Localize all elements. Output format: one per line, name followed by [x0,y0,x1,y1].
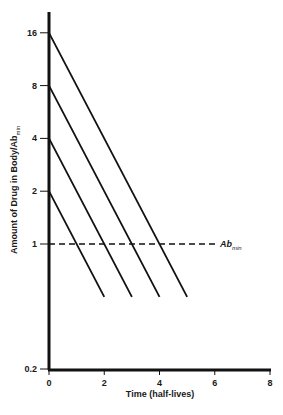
y-axis-ticks: 0.2124816 [24,28,49,374]
x-tick-label: 0 [46,378,51,388]
series-lines [49,33,187,297]
x-axis-label: Time (half-lives) [126,389,194,399]
y-tick-label: 0.2 [24,364,37,374]
y-axis-label: Amount of Drug in Body/Abmin [9,126,21,254]
elimination-line [49,33,187,297]
y-tick-label: 8 [32,81,37,91]
x-tick-label: 8 [267,378,272,388]
x-tick-label: 2 [102,378,107,388]
x-axis-ticks: 02468 [46,370,272,388]
x-tick-label: 6 [212,378,217,388]
y-tick-label: 2 [32,186,37,196]
elimination-line [49,191,104,297]
ab-min-label: Abmin [219,239,242,251]
elimination-line [49,86,160,297]
y-tick-label: 16 [27,28,37,38]
y-tick-label: 4 [32,133,37,143]
elimination-line [49,138,132,296]
x-tick-label: 4 [157,378,162,388]
y-tick-label: 1 [32,239,37,249]
chart: 0.2124816 02468 Abmin Time (half-lives) … [0,0,283,415]
